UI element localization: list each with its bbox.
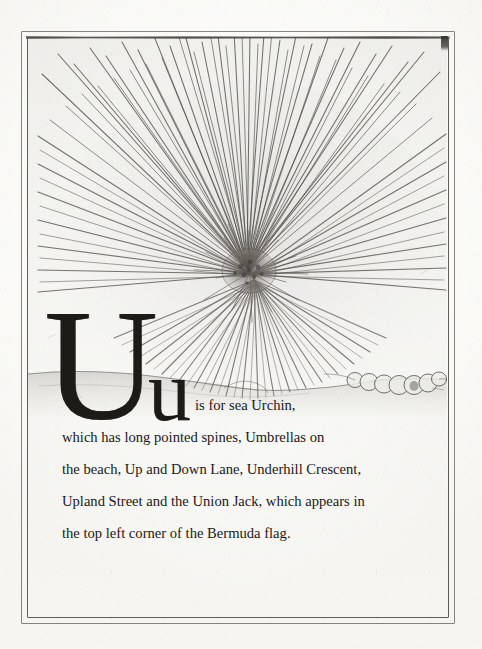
caption-line-text: which has long pointed spines, Umbrellas… xyxy=(62,430,324,445)
caption-line: the beach, Up and Down Lane, Underhill C… xyxy=(62,462,434,494)
caption-line-text: Upland Street and the Union Jack, which … xyxy=(62,494,365,509)
frame-corner-ink-mark xyxy=(441,36,448,51)
caption-line-text: the top left corner of the Bermuda flag. xyxy=(62,526,291,541)
caption-line: which has long pointed spines, Umbrellas… xyxy=(62,430,434,462)
illustrated-alphabet-page: U u is for sea Urchin, which has long po… xyxy=(0,0,482,649)
caption-line-text: is for sea Urchin, xyxy=(195,398,296,413)
caption-line: the top left corner of the Bermuda flag. xyxy=(62,526,434,558)
caption-line: is for sea Urchin, xyxy=(62,398,434,430)
caption-line: Upland Street and the Union Jack, which … xyxy=(62,494,434,526)
caption-text-block: is for sea Urchin, which has long pointe… xyxy=(62,398,434,558)
caption-line-text: the beach, Up and Down Lane, Underhill C… xyxy=(62,462,361,477)
